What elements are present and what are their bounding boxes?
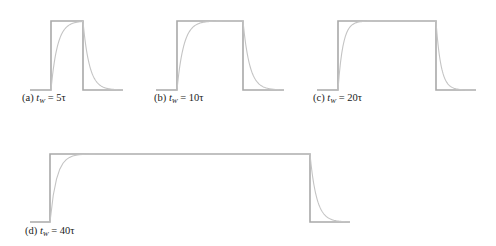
panel-b <box>156 21 284 90</box>
panel-a <box>30 21 123 90</box>
rc-response-curve <box>51 21 123 90</box>
caption-subscript: W <box>43 230 49 238</box>
input-pulse <box>156 21 284 90</box>
caption-equation: = 10τ <box>180 92 203 103</box>
panel-d <box>30 154 350 222</box>
caption-a: (a) tW = 5τ <box>22 92 66 105</box>
caption-label: (d) <box>25 225 37 236</box>
caption-subscript: W <box>330 97 336 105</box>
caption-subscript: W <box>39 97 45 105</box>
caption-d: (d) tW = 40τ <box>25 225 75 238</box>
rc-response-curve <box>338 21 476 90</box>
caption-label: (a) <box>22 92 34 103</box>
caption-c: (c) tW = 20τ <box>313 92 362 105</box>
caption-b: (b) tW = 10τ <box>154 92 204 105</box>
caption-equation: = 20τ <box>339 92 362 103</box>
caption-subscript: W <box>172 97 178 105</box>
pulse-response-figure <box>0 0 496 246</box>
input-pulse <box>317 21 476 90</box>
caption-equation: = 40τ <box>51 225 74 236</box>
rc-response-curve <box>50 154 350 222</box>
input-pulse <box>30 21 123 90</box>
caption-equation: = 5τ <box>48 92 66 103</box>
rc-response-curve <box>177 21 284 90</box>
caption-label: (b) <box>154 92 166 103</box>
panel-c <box>317 21 476 90</box>
input-pulse <box>30 154 350 222</box>
caption-label: (c) <box>313 92 325 103</box>
